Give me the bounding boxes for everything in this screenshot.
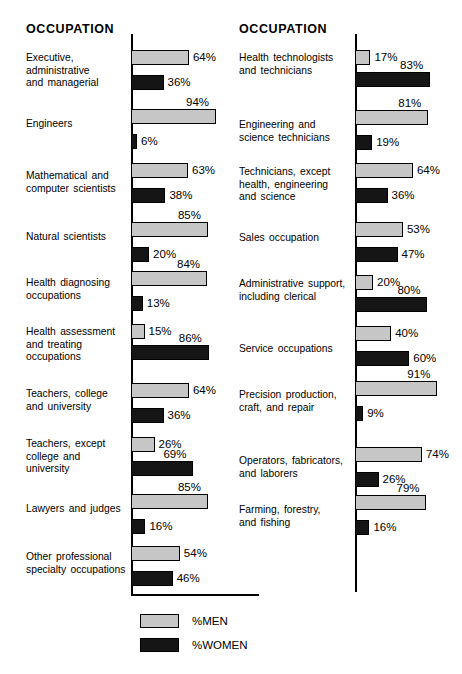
bar-men (355, 326, 391, 341)
bar-value-label: 17% (374, 51, 397, 63)
panel-heading: OCCUPATION (26, 22, 114, 36)
occupation-label: Teachers, college and university (26, 388, 126, 413)
bar-value-label: 20% (153, 248, 176, 260)
bar-value-label: 36% (392, 189, 415, 201)
occupation-gender-chart: OCCUPATIONExecutive, administrative and … (0, 0, 462, 674)
bar-value-label: 79% (396, 482, 419, 494)
occupation-label: Sales occupation (239, 232, 357, 245)
bar-men (131, 271, 207, 286)
bar-value-label: 54% (184, 547, 207, 559)
bar-men (355, 275, 373, 290)
bar-women (355, 351, 409, 366)
bar-women (355, 135, 372, 150)
bar-value-label: 6% (141, 135, 158, 147)
bar-women (131, 247, 149, 262)
bar-men (355, 222, 403, 237)
bar-women (355, 72, 430, 87)
bar-men (355, 110, 428, 125)
chart-panel-left: OCCUPATIONExecutive, administrative and … (0, 0, 231, 674)
occupation-label: Engineering and science technicians (239, 119, 357, 144)
bar-men (131, 546, 180, 561)
bar-value-label: 36% (168, 409, 191, 421)
bar-women (355, 406, 363, 421)
occupation-label: Other professional specialty occupations (26, 551, 126, 576)
bar-value-label: 84% (177, 258, 200, 270)
occupation-label: Health technologists and technicians (239, 52, 357, 77)
bar-value-label: 19% (376, 136, 399, 148)
bar-value-label: 80% (397, 284, 420, 296)
occupation-label: Farming, forestry, and fishing (239, 504, 357, 529)
occupation-label: Teachers, except college and university (26, 438, 126, 476)
panel-heading: OCCUPATION (239, 22, 327, 36)
bar-value-label: 46% (177, 572, 200, 584)
legend-label-women: %WOMEN (192, 639, 248, 651)
bar-men (131, 494, 208, 509)
bar-women (131, 571, 173, 586)
bar-value-label: 91% (407, 368, 430, 380)
chart-panel-right: OCCUPATIONHealth technologists and techn… (231, 0, 462, 674)
bar-value-label: 53% (407, 223, 430, 235)
bar-value-label: 86% (179, 332, 202, 344)
bar-value-label: 64% (193, 51, 216, 63)
bar-value-label: 15% (149, 325, 172, 337)
bar-women (131, 519, 145, 534)
bar-value-label: 47% (402, 248, 425, 260)
bar-men (355, 163, 413, 178)
bar-value-label: 63% (192, 164, 215, 176)
bar-women (131, 75, 164, 90)
occupation-label: Mathematical and computer scientists (26, 170, 126, 195)
occupation-label: Precision production, craft, and repair (239, 389, 357, 414)
bar-value-label: 74% (426, 448, 449, 460)
bar-value-label: 40% (395, 327, 418, 339)
occupation-label: Administrative support, including cleric… (239, 278, 357, 303)
bar-women (355, 247, 398, 262)
bar-women (131, 461, 193, 476)
bar-men (131, 163, 188, 178)
occupation-label: Lawyers and judges (26, 503, 126, 516)
bar-value-label: 81% (398, 97, 421, 109)
bar-men (131, 383, 189, 398)
legend-swatch-men (140, 614, 179, 628)
occupation-label: Natural scientists (26, 231, 126, 244)
bar-value-label: 16% (149, 520, 172, 532)
occupation-label: Health assessment and treating occupatio… (26, 326, 126, 364)
bar-value-label: 13% (147, 297, 170, 309)
occupation-label: Health diagnosing occupations (26, 277, 126, 302)
bar-men (131, 109, 216, 124)
legend-swatch-women (140, 638, 179, 652)
bar-men (355, 447, 422, 462)
bar-value-label: 16% (373, 521, 396, 533)
bar-men (131, 324, 145, 339)
bar-men (131, 50, 189, 65)
bar-value-label: 85% (178, 209, 201, 221)
bar-men (131, 222, 208, 237)
bar-value-label: 9% (367, 407, 384, 419)
bar-value-label: 64% (193, 384, 216, 396)
bar-women (355, 472, 379, 487)
occupation-label: Executive, administrative and managerial (26, 52, 126, 90)
bar-men (355, 495, 426, 510)
bar-women (355, 520, 369, 535)
bar-women (355, 188, 388, 203)
bar-value-label: 94% (186, 96, 209, 108)
bar-men (355, 50, 370, 65)
occupation-label: Service occupations (239, 343, 357, 356)
bar-women (355, 297, 427, 312)
bar-women (131, 345, 209, 360)
bar-value-label: 85% (178, 481, 201, 493)
bar-value-label: 38% (169, 189, 192, 201)
occupation-label: Technicians, except health, engineering … (239, 166, 357, 204)
occupation-label: Operators, fabricators, and laborers (239, 455, 357, 480)
bar-women (131, 134, 137, 149)
legend-label-men: %MEN (192, 615, 228, 627)
bar-value-label: 60% (413, 352, 436, 364)
bar-value-label: 64% (417, 164, 440, 176)
bar-women (131, 188, 165, 203)
bar-value-label: 36% (168, 76, 191, 88)
occupation-label: Engineers (26, 118, 126, 131)
bar-men (355, 381, 437, 396)
bar-men (131, 437, 155, 452)
bar-women (131, 408, 164, 423)
bar-value-label: 69% (163, 448, 186, 460)
bar-women (131, 296, 143, 311)
